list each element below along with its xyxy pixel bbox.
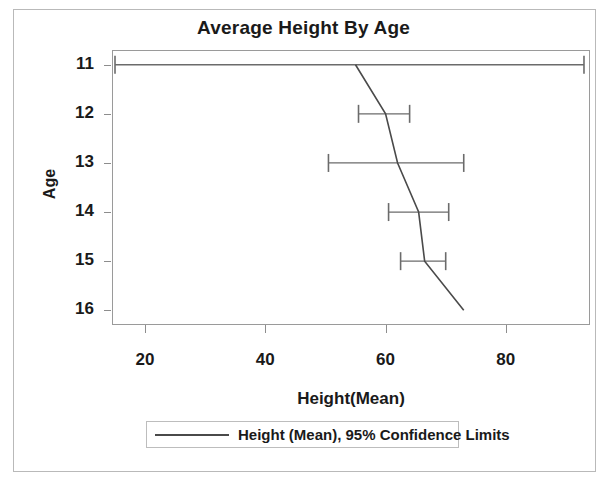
y-axis-tick-label: 14 (54, 201, 94, 221)
x-axis-tick-mark (506, 325, 507, 333)
x-axis-tick-mark (265, 325, 266, 333)
chart-title: Average Height By Age (0, 17, 607, 39)
y-axis-label: Age (41, 124, 59, 244)
x-axis-tick-mark (145, 325, 146, 333)
x-axis-tick-label: 20 (120, 350, 170, 370)
x-axis-tick-mark (386, 325, 387, 333)
y-axis-tick-label: 11 (54, 54, 94, 74)
y-axis-tick-label: 12 (54, 103, 94, 123)
plot-canvas (112, 50, 590, 325)
y-axis-tick-mark (104, 212, 111, 213)
y-axis-tick-mark (104, 163, 111, 164)
legend-entry-label: Height (Mean), 95% Confidence Limits (238, 426, 510, 443)
y-axis-tick-label: 15 (54, 250, 94, 270)
x-axis-tick-label: 80 (481, 350, 531, 370)
y-axis-tick-label: 16 (54, 299, 94, 319)
error-bar (359, 105, 410, 123)
y-axis-tick-mark (104, 310, 111, 311)
y-axis-tick-mark (104, 65, 111, 66)
y-axis-tick-label: 13 (54, 152, 94, 172)
x-axis-tick-label: 40 (240, 350, 290, 370)
legend-line-swatch (155, 434, 229, 436)
chart-legend: Height (Mean), 95% Confidence Limits (146, 421, 459, 448)
y-axis-tick-mark (104, 114, 111, 115)
chart-figure: Average Height By Age Age 111213141516 2… (0, 0, 607, 486)
y-axis-tick-mark (104, 261, 111, 262)
mean-line (356, 65, 464, 311)
error-bar (115, 56, 584, 74)
x-axis-tick-label: 60 (361, 350, 411, 370)
x-axis-label: Height(Mean) (112, 389, 590, 409)
